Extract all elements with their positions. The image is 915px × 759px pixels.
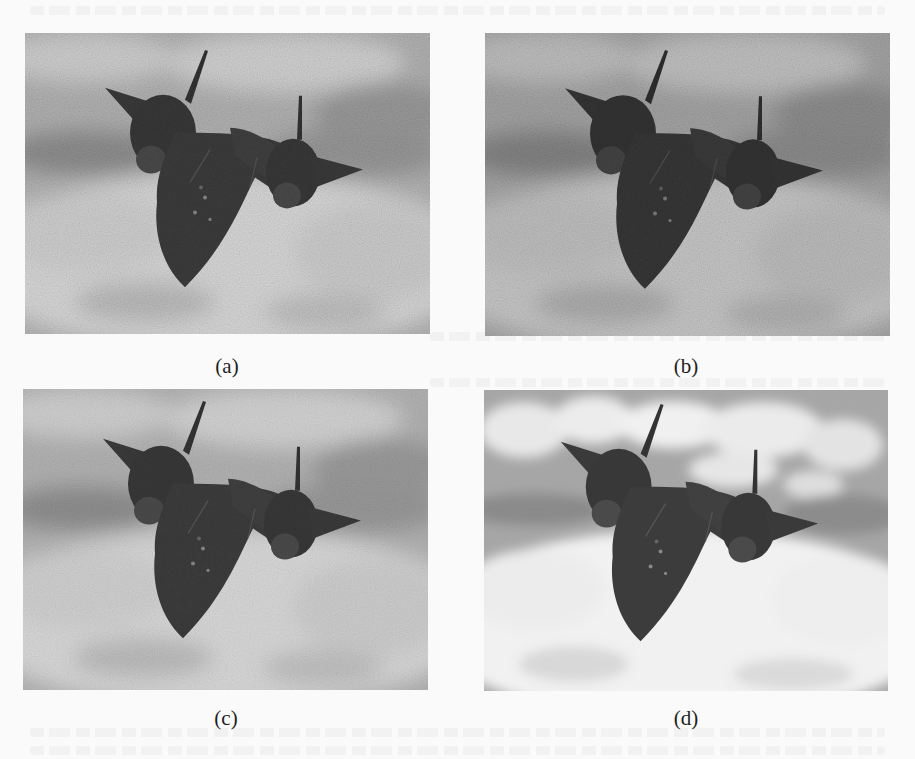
panel-d-image [484, 390, 888, 691]
aircraft-partially-denoised-image-c [23, 389, 428, 690]
panel-b-image [485, 33, 890, 336]
panel-a-image [25, 33, 430, 334]
aircraft-noisy-image-b [485, 33, 890, 336]
caption-a: (a) [187, 354, 267, 378]
panel-c-image [23, 389, 428, 690]
caption-d: (d) [646, 706, 726, 730]
aircraft-noisy-image-a [25, 33, 430, 334]
caption-b: (b) [646, 354, 726, 378]
figure-four-panel: (a) (b) (c) (d) [0, 0, 915, 759]
caption-c: (c) [186, 706, 266, 730]
aircraft-denoised-image-d [484, 390, 888, 691]
